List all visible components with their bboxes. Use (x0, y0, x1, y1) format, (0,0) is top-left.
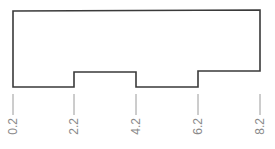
stepped-profile-diagram: 0.22.24.26.28.2 (0, 0, 275, 149)
profile-outline (13, 10, 260, 87)
tick-label: 4.2 (129, 118, 143, 135)
tick-label: 2.2 (67, 118, 81, 135)
axis-labels: 0.22.24.26.28.2 (6, 118, 267, 135)
tick-label: 6.2 (191, 118, 205, 135)
axis-ticks (13, 94, 260, 115)
tick-label: 8.2 (253, 118, 267, 135)
tick-label: 0.2 (6, 118, 20, 135)
